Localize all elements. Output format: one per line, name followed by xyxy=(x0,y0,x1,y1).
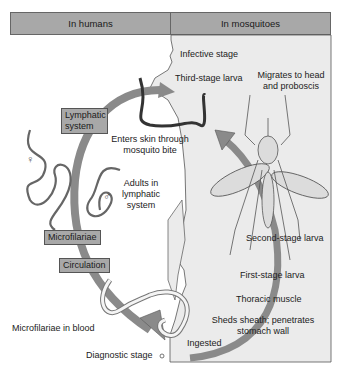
lymphatic-system-box: Lymphatic system xyxy=(61,108,108,134)
sheds-sheath-label: Sheds sheath; penetrates stomach wall xyxy=(205,315,321,337)
male-symbol-icon: ♂ xyxy=(103,190,111,202)
migrates-label: Migrates to head and proboscis xyxy=(252,70,330,92)
circulation-box: Circulation xyxy=(59,258,110,273)
diagnostic-stage-label: Diagnostic stage xyxy=(86,350,153,361)
first-stage-larva-label: First-stage larva xyxy=(240,270,305,281)
ingested-label: Ingested xyxy=(187,338,222,349)
adults-in-lymphatic-label: Adults in lymphatic system xyxy=(118,178,164,211)
microfilariae-box: Microfilariae xyxy=(44,230,101,245)
human-arm xyxy=(168,200,185,300)
infective-stage-label: Infective stage xyxy=(180,49,238,60)
third-stage-larva-label: Third-stage larva xyxy=(175,73,243,84)
thoracic-muscle-label: Thoracic muscle xyxy=(236,294,302,305)
second-stage-larva-label: Second-stage larva xyxy=(246,233,324,244)
microfilariae-in-blood-label: Microfilariae in blood xyxy=(12,323,95,334)
diagnostic-pointer-icon xyxy=(160,354,164,358)
female-symbol-icon: ♀ xyxy=(26,153,34,165)
enters-skin-label: Enters skin through mosquito bite xyxy=(110,134,190,156)
